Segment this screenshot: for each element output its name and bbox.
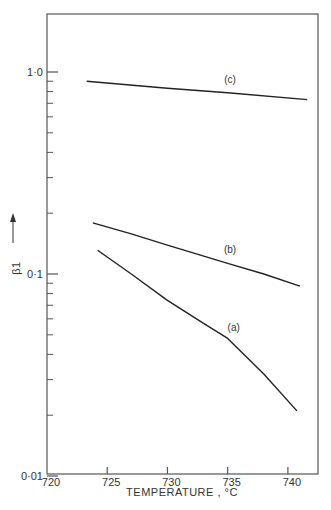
y-axis-arrow-icon (10, 213, 16, 243)
curve-label: (a) (228, 322, 240, 333)
plot-frame (47, 14, 318, 474)
x-tick-label: 725 (102, 476, 120, 488)
curve-label: (b) (224, 244, 236, 255)
y-axis-label: β1 (10, 261, 22, 274)
y-axis-ticks: 0·010·11·0 (21, 66, 58, 482)
y-tick-label: 1·0 (27, 66, 43, 78)
x-tick-label: 740 (283, 476, 301, 488)
curve-label: (c) (224, 74, 236, 85)
chart: 0·010·11·0 720725730735740 (a)(b)(c) TEM… (0, 0, 331, 510)
curve-b (93, 223, 300, 286)
curve-c (87, 81, 308, 99)
y-axis-label-text: β1 (10, 261, 22, 274)
x-axis-label: TEMPERATURE , °C (126, 486, 238, 498)
y-tick-label: 0·1 (27, 268, 43, 280)
curves: (a)(b)(c) (87, 74, 308, 411)
y-tick-label: 0·01 (21, 470, 43, 482)
x-axis-ticks: 720725730735740 (42, 467, 301, 488)
x-tick-label: 720 (42, 476, 60, 488)
